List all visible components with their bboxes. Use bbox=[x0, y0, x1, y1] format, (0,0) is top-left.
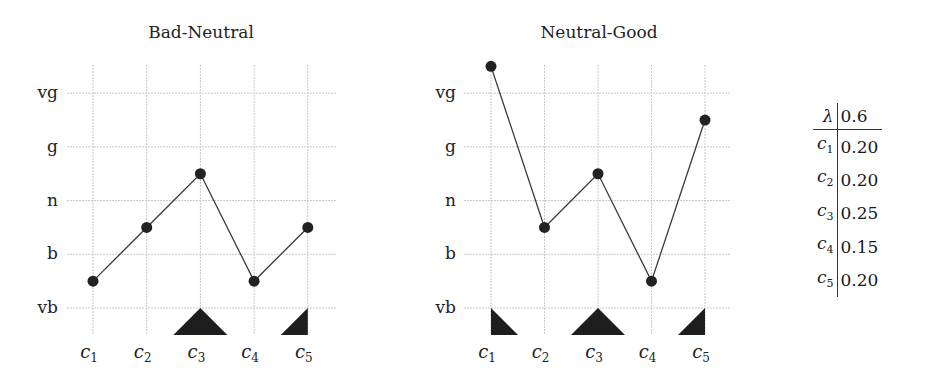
x-tick-label: c5 bbox=[295, 341, 313, 365]
x-tick-label: c2 bbox=[532, 341, 550, 365]
data-point bbox=[539, 222, 550, 233]
row-key: c2 bbox=[813, 163, 837, 196]
data-point bbox=[141, 222, 152, 233]
data-point bbox=[249, 276, 260, 287]
y-tick-label: g bbox=[47, 136, 58, 156]
y-tick-label: vg bbox=[37, 82, 59, 102]
y-tick-label: g bbox=[445, 136, 456, 156]
triangle-marker-icon bbox=[571, 308, 625, 335]
row-key: c1 bbox=[813, 130, 837, 164]
triangle-marker-icon bbox=[491, 308, 518, 335]
row-key: c4 bbox=[813, 230, 837, 263]
data-point bbox=[195, 168, 206, 179]
row-value: 0.20 bbox=[837, 163, 882, 196]
row-key: c3 bbox=[813, 197, 837, 230]
x-tick-label: c3 bbox=[188, 341, 206, 365]
data-point bbox=[486, 61, 497, 72]
lambda-value: 0.6 bbox=[837, 103, 882, 130]
chart-title: Bad-Neutral bbox=[148, 22, 254, 42]
y-tick-label: n bbox=[47, 190, 58, 210]
x-tick-label: c2 bbox=[134, 341, 152, 365]
data-point bbox=[646, 276, 657, 287]
table-row: c20.20 bbox=[813, 163, 882, 196]
x-tick-label: c3 bbox=[585, 341, 603, 365]
table-row: c50.20 bbox=[813, 264, 882, 297]
chart-title: Neutral-Good bbox=[540, 22, 657, 42]
row-value: 0.15 bbox=[837, 230, 882, 263]
x-tick-label: c4 bbox=[241, 341, 259, 365]
y-tick-label: vb bbox=[37, 297, 59, 317]
data-point bbox=[88, 276, 99, 287]
triangle-marker-icon bbox=[173, 308, 227, 335]
triangle-marker-icon bbox=[678, 308, 705, 335]
row-value: 0.20 bbox=[837, 264, 882, 297]
data-point bbox=[302, 222, 313, 233]
data-point bbox=[700, 115, 711, 126]
triangle-marker-icon bbox=[281, 308, 308, 335]
y-tick-label: vb bbox=[435, 297, 457, 317]
chart-bad-neutral: Bad-Neutralvbbngvgc1c2c3c4c5 bbox=[37, 22, 337, 365]
row-value: 0.20 bbox=[837, 130, 882, 164]
row-value: 0.25 bbox=[837, 197, 882, 230]
y-tick-label: b bbox=[445, 243, 456, 263]
table-header-row: λ 0.6 bbox=[813, 103, 882, 130]
x-tick-label: c1 bbox=[80, 341, 98, 365]
y-tick-label: n bbox=[445, 190, 456, 210]
x-tick-label: c5 bbox=[692, 341, 710, 365]
y-tick-label: vg bbox=[435, 82, 457, 102]
table-row: c30.25 bbox=[813, 197, 882, 230]
table-row: c40.15 bbox=[813, 230, 882, 263]
row-key: c5 bbox=[813, 264, 837, 297]
data-point bbox=[593, 168, 604, 179]
x-tick-label: c4 bbox=[639, 341, 657, 365]
chart-neutral-good: Neutral-Goodvbbngvgc1c2c3c4c5 bbox=[435, 22, 732, 365]
table-row: c10.20 bbox=[813, 130, 882, 164]
charts-canvas: Bad-Neutralvbbngvgc1c2c3c4c5 Neutral-Goo… bbox=[0, 0, 926, 386]
lambda-label: λ bbox=[813, 103, 837, 130]
lambda-table: λ 0.6 c10.20c20.20c30.25c40.15c50.20 bbox=[813, 103, 882, 297]
y-tick-label: b bbox=[47, 243, 58, 263]
x-tick-label: c1 bbox=[478, 341, 496, 365]
